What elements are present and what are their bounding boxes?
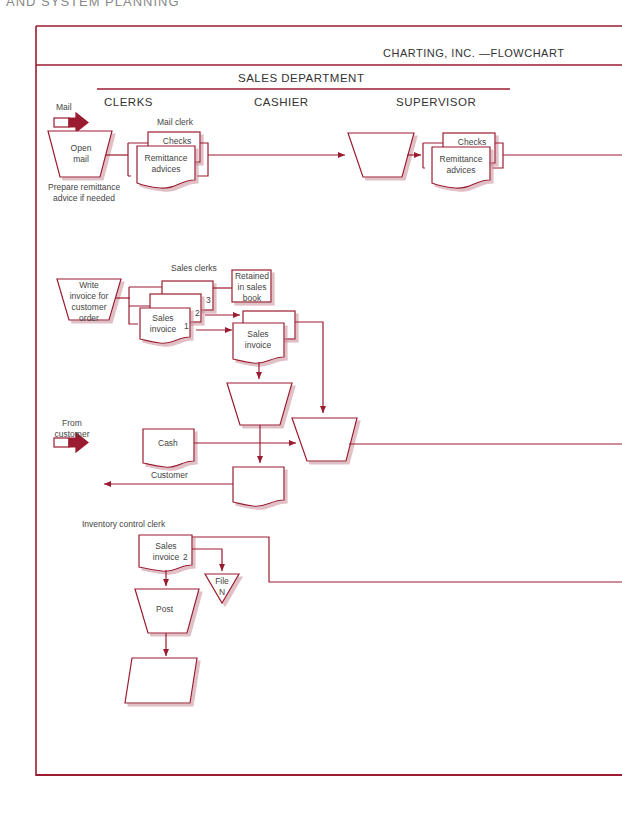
- cashier-invoice-label: Sales invoice: [240, 329, 276, 351]
- sales-invoice-label: Sales invoice: [145, 313, 181, 335]
- department-title: SALES DEPARTMENT: [238, 72, 364, 84]
- copy-2-number: 2: [195, 308, 200, 319]
- lane-clerks: CLERKS: [104, 96, 153, 108]
- chart-title: CHARTING, INC. —FLOWCHART: [383, 47, 564, 59]
- write-invoice-label: Write invoice for customer order: [66, 280, 112, 324]
- supervisor-remittance-label: Remittance advices: [435, 154, 487, 176]
- prepare-remittance-note: Prepare remittance advice if needed: [48, 182, 120, 204]
- lane-supervisor: SUPERVISOR: [396, 96, 476, 108]
- cash-label: Cash: [158, 438, 178, 449]
- page-header-partial: AND SYSTEM PLANNING: [6, 0, 180, 9]
- retained-label: Retained in sales book: [234, 271, 270, 304]
- checks-label: Checks: [162, 136, 192, 147]
- remittance-label: Remittance advices: [140, 153, 192, 175]
- mail-clerk-label: Mail clerk: [157, 117, 193, 128]
- inventory-copy-number: 2: [183, 552, 188, 563]
- supervisor-checks-label: Checks: [457, 137, 487, 148]
- mail-input-label: Mail: [56, 102, 72, 113]
- from-customer-label: From customer: [52, 418, 92, 440]
- lane-cashier: CASHIER: [254, 96, 309, 108]
- inventory-clerk-label: Inventory control clerk: [82, 519, 165, 530]
- post-label: Post: [156, 604, 173, 615]
- open-mail-label: Open mail: [65, 143, 97, 165]
- copy-1-number: 1: [184, 321, 189, 332]
- sales-clerks-label: Sales clerks: [171, 263, 217, 274]
- inventory-invoice-label: Sales invoice: [151, 541, 181, 563]
- customer-label: Customer: [151, 470, 188, 481]
- file-n-label: File N: [212, 576, 232, 598]
- copy-3-number: 3: [206, 295, 211, 306]
